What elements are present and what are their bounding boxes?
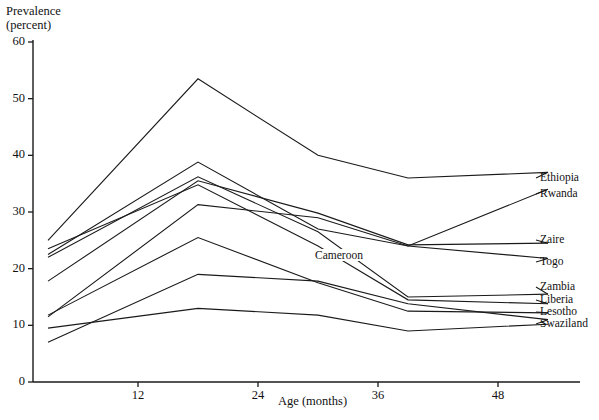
plot-area [0,0,599,420]
series-label-ethiopia: Ethiopia [540,171,579,183]
x-tick-label-36: 36 [358,388,398,403]
series-label-zambia: Zambia [540,280,575,292]
series-line-zambia [48,177,548,297]
axes [33,40,580,382]
y-tick-label-60: 60 [0,34,25,49]
series-label-zaire: Zaire [540,233,564,245]
series-line-zaire [48,181,548,281]
series-label-swaziland: Swaziland [540,317,588,329]
y-tick-label-50: 50 [0,91,25,106]
series-line-togo [48,205,548,317]
y-tick-label-20: 20 [0,261,25,276]
y-tick-label-10: 10 [0,317,25,332]
series-line-swaziland [48,274,548,342]
series-label-togo: Togo [540,255,563,267]
y-tick-label-40: 40 [0,147,25,162]
series-label-rwanda: Rwanda [540,187,578,199]
y-axis-ticks [28,42,33,382]
chart-figure: Prevalence(percent) Age (months) 0102030… [0,0,599,420]
x-axis-ticks [138,382,498,387]
annotation-cameroon: Cameroon [313,249,365,261]
y-tick-label-30: 30 [0,204,25,219]
series-label-liberia: Liberia [540,293,573,305]
x-tick-label-48: 48 [478,388,518,403]
x-tick-label-24: 24 [238,388,278,403]
series-line-ethiopia [48,79,548,241]
x-tick-label-12: 12 [118,388,158,403]
y-tick-label-0: 0 [0,374,25,389]
series-label-lesotho: Lesotho [540,305,577,317]
data-series-lines [48,79,548,343]
series-line-lesotho [48,238,548,316]
